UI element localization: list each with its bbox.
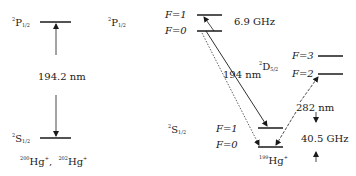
d-transition-label: 282 nm [296, 103, 334, 113]
term-symbol: D [262, 61, 270, 72]
mass-number: 199 [259, 154, 269, 160]
term-symbol: P [15, 17, 22, 28]
s-splitting-label: 40.5 GHz [301, 134, 348, 144]
p-f1-label: F=1 [165, 10, 187, 20]
j-value: 5/2 [270, 66, 278, 72]
right-s-state-label: 2S1/2 [168, 124, 186, 135]
uv-transition-label: 194 nm [223, 70, 261, 80]
left-isotopes-label: 200Hg+, 202Hg+ [20, 156, 87, 167]
left-s-state-label: 2S1/2 [12, 133, 30, 144]
j-value: 1/2 [178, 129, 186, 135]
j-value: 1/2 [22, 138, 30, 144]
d-arrow-up [300, 77, 318, 102]
d-state-label: 2D5/2 [259, 61, 278, 72]
element-symbol: Hg [68, 156, 83, 167]
s-f1-label: F=1 [216, 124, 238, 134]
p-f0-label: F=0 [165, 26, 187, 36]
right-isotope-label: 199Hg+ [259, 155, 288, 166]
charge: + [284, 154, 288, 160]
s-f0-label: F=0 [216, 140, 238, 150]
left-p-state-label: 2P1/2 [12, 17, 30, 28]
j-value: 1/2 [118, 22, 126, 28]
j-value: 1/2 [22, 22, 30, 28]
mass-number: 202 [58, 155, 68, 161]
element-symbol: Hg [269, 155, 284, 166]
d-f2-label: F=2 [292, 69, 314, 79]
uv-arrow-up [204, 17, 214, 31]
charge: + [83, 155, 87, 161]
mass-number: 200 [20, 155, 30, 161]
element-symbol: Hg [30, 156, 45, 167]
separator: , [49, 156, 52, 167]
d-f3-label: F=3 [292, 51, 314, 61]
p-splitting-label: 6.9 GHz [234, 17, 275, 27]
right-p-state-label: 2P1/2 [108, 17, 126, 28]
term-symbol: P [111, 17, 118, 28]
left-transition-label: 194.2 nm [38, 72, 86, 82]
